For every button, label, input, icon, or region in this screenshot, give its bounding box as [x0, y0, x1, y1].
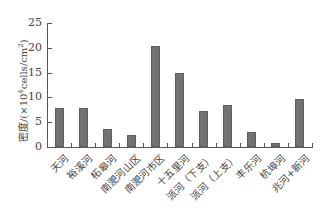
- bar: [55, 108, 64, 147]
- bar: [271, 143, 280, 147]
- x-axis: [47, 147, 313, 148]
- x-tick: [192, 143, 193, 147]
- x-tick: [95, 143, 96, 147]
- y-tick-label: 0: [22, 141, 42, 152]
- x-tick: [143, 143, 144, 147]
- x-tick-label: 裕溪河: [66, 153, 94, 181]
- x-tick-label: 丰乐河: [235, 153, 263, 181]
- y-tick: [48, 122, 52, 123]
- y-tick: [48, 97, 52, 98]
- x-tick: [119, 143, 120, 147]
- y-axis: [47, 23, 48, 148]
- y-tick: [48, 48, 52, 49]
- bar: [223, 105, 232, 147]
- bar-chart: 0510152025 天河裕溪河柘皋河南淝河山区南淝河市区十五里河派河（下支）派…: [0, 0, 330, 211]
- x-tick: [71, 143, 72, 147]
- y-tick: [48, 23, 52, 24]
- y-tick: [48, 147, 52, 148]
- bar: [79, 108, 88, 147]
- bar: [199, 111, 208, 147]
- bar: [295, 99, 304, 147]
- bar: [175, 73, 184, 147]
- x-tick: [264, 143, 265, 147]
- x-tick: [167, 143, 168, 147]
- bar: [151, 46, 160, 147]
- x-tick: [288, 143, 289, 147]
- bar: [247, 132, 256, 147]
- x-tick: [216, 143, 217, 147]
- x-tick: [312, 143, 313, 147]
- x-tick: [240, 143, 241, 147]
- bar: [127, 135, 136, 147]
- y-tick-label: 25: [22, 17, 42, 28]
- y-axis-label: 密度/(×104cells/cm2): [16, 39, 29, 142]
- bar: [103, 129, 112, 147]
- y-tick: [48, 73, 52, 74]
